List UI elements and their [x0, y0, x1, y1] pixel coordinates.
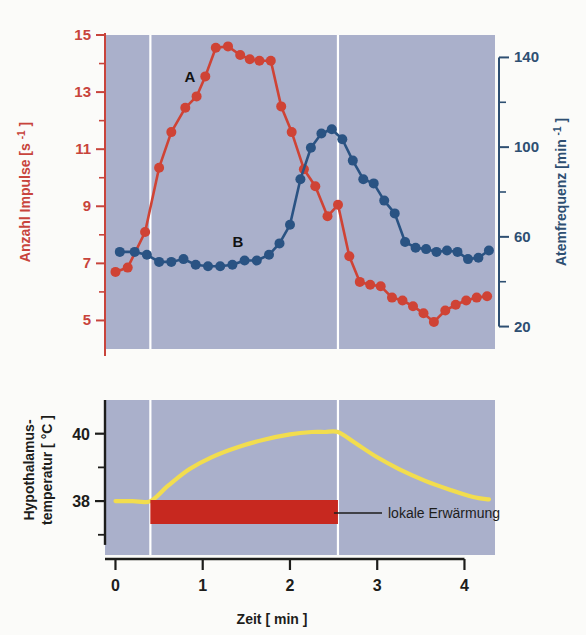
series-B-point-25: [400, 237, 410, 247]
series-B-point-19: [337, 134, 347, 144]
series-B-point-18: [327, 124, 337, 134]
left-axis-title-main: Anzahl Impulse: [17, 159, 33, 262]
right-axis-tick-label-140: 140: [514, 48, 539, 65]
bottom-axis-title-unit: [ °C ]: [39, 415, 55, 448]
series-A-point-17: [310, 181, 320, 191]
bottom-axis-title-line1: Hypothalamus-: [21, 419, 37, 520]
series-b-label: B: [233, 233, 244, 250]
series-B-point-16: [306, 143, 316, 153]
series-A-point-14: [276, 101, 286, 111]
right-axis-title-unit-close: ]: [553, 118, 569, 123]
series-A-point-26: [408, 301, 418, 311]
series-B-point-0: [115, 247, 125, 257]
series-B-point-33: [484, 246, 494, 256]
series-B-point-27: [421, 244, 431, 254]
series-B-point-32: [473, 253, 483, 263]
series-A-point-19: [333, 200, 343, 210]
series-A-point-29: [440, 306, 450, 316]
left-axis-title: Anzahl Impulse [s -1 ]: [12, 122, 33, 262]
bottom-panel: 4038 lokale Erwärmung: [72, 400, 500, 555]
series-B-point-15: [295, 174, 305, 184]
left-axis-tick-label-13: 13: [74, 83, 91, 100]
series-A-point-18: [323, 211, 333, 221]
left-axis-title-unit: [s: [17, 143, 33, 156]
left-axis-tick-label-5: 5: [83, 311, 91, 328]
right-axis-tick-label-100: 100: [514, 138, 539, 155]
series-B-point-2: [142, 250, 152, 260]
left-axis: [96, 33, 105, 356]
series-A-point-27: [419, 308, 429, 318]
series-B-point-29: [442, 246, 452, 256]
x-axis-title-unit: [ min ]: [265, 611, 307, 627]
x-axis-tick-label-2: 2: [286, 577, 295, 594]
series-A-point-11: [245, 54, 255, 64]
series-A-point-1: [123, 263, 133, 273]
right-axis-title: Atemfrequenz [min -1 ]: [548, 118, 569, 266]
left-axis-tick-label-7: 7: [83, 254, 91, 271]
svg-text:Anzahl Impulse: Anzahl Impulse [s -1 ]: [12, 122, 33, 262]
right-axis-title-unit-sup: -1: [552, 126, 563, 135]
series-A-point-33: [482, 291, 492, 301]
series-B-point-1: [130, 247, 140, 257]
series-B-point-17: [316, 129, 326, 139]
bottom-axis-tick-label-40: 40: [72, 426, 90, 443]
bottom-axis-title: Hypothalamus-: [21, 419, 37, 520]
series-B-point-5: [179, 254, 189, 264]
x-axis-tick-label-4: 4: [460, 577, 469, 594]
local-warming-bar: [150, 500, 338, 524]
series-A-point-32: [472, 293, 482, 303]
series-B-point-9: [227, 260, 237, 270]
series-A-point-31: [461, 296, 471, 306]
series-A-point-21: [355, 277, 365, 287]
right-axis-title-unit: [min: [553, 139, 569, 169]
x-axis-line-and-ticks: [105, 559, 464, 570]
series-B-point-4: [166, 257, 176, 267]
bottom-panel-background: [105, 400, 495, 555]
figure-root: 151311975 1401006020 A B Anzahl Impulse …: [0, 0, 586, 635]
biology-figure-svg: 151311975 1401006020 A B Anzahl Impulse …: [0, 0, 586, 635]
series-A-point-0: [111, 267, 121, 277]
x-axis-title-main: Zeit: [237, 611, 262, 627]
series-a-label: A: [185, 68, 196, 85]
series-B-point-13: [275, 238, 285, 248]
series-A-point-22: [365, 280, 375, 290]
series-A-point-23: [376, 281, 386, 291]
bottom-axis-tick-label-38: 38: [72, 493, 90, 510]
left-axis-title-unit-sup: -1: [16, 130, 27, 139]
series-B-point-26: [411, 243, 421, 253]
series-A-point-8: [211, 43, 221, 53]
left-axis-title-unit-close: ]: [17, 122, 33, 127]
left-axis-tick-label-11: 11: [75, 140, 91, 157]
right-axis-tick-labels: 1401006020: [514, 48, 539, 334]
series-A-point-2: [140, 227, 150, 237]
series-B-point-24: [390, 208, 400, 218]
series-A-point-15: [287, 127, 297, 137]
right-axis-tick-label-20: 20: [514, 318, 531, 335]
series-A-point-24: [387, 293, 397, 303]
series-A-point-25: [398, 296, 408, 306]
series-B-point-14: [285, 220, 295, 230]
series-A-point-4: [166, 127, 176, 137]
right-axis: [499, 57, 509, 326]
x-axis-tick-label-3: 3: [373, 577, 382, 594]
series-A-point-5: [180, 103, 190, 113]
left-axis-tick-label-9: 9: [83, 197, 91, 214]
x-axis: 01234 Zeit [ min ]: [105, 559, 469, 627]
series-A-point-28: [429, 317, 439, 327]
series-A-point-13: [266, 56, 276, 66]
left-axis-tick-label-15: 15: [74, 26, 91, 43]
local-warming-label: lokale Erwärmung: [388, 505, 500, 521]
series-B-point-31: [463, 254, 473, 264]
series-A-point-6: [192, 91, 202, 101]
series-A-point-20: [344, 251, 354, 261]
x-axis-tick-labels: 01234: [111, 577, 469, 594]
bottom-panel-y-tick-labels: 4038: [72, 426, 90, 510]
series-B-point-23: [379, 196, 389, 206]
series-B-point-21: [358, 174, 368, 184]
series-A-point-10: [235, 50, 245, 60]
series-B-point-28: [432, 247, 442, 257]
x-axis-title: Zeit [ min ]: [237, 611, 308, 627]
series-B-point-7: [203, 261, 213, 271]
series-B-point-30: [453, 247, 463, 257]
top-panel-background: [105, 35, 495, 349]
